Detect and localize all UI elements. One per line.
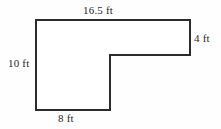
l-shape-polygon-svg: [0, 0, 221, 129]
figure-canvas: 16.5 ft 4 ft 10 ft 8 ft: [0, 0, 221, 129]
dimension-label-right: 4 ft: [194, 33, 210, 44]
dimension-label-bottom: 8 ft: [58, 113, 74, 124]
dimension-label-top: 16.5 ft: [83, 5, 113, 16]
l-shape-polygon: [36, 20, 190, 110]
dimension-label-left: 10 ft: [8, 58, 29, 69]
